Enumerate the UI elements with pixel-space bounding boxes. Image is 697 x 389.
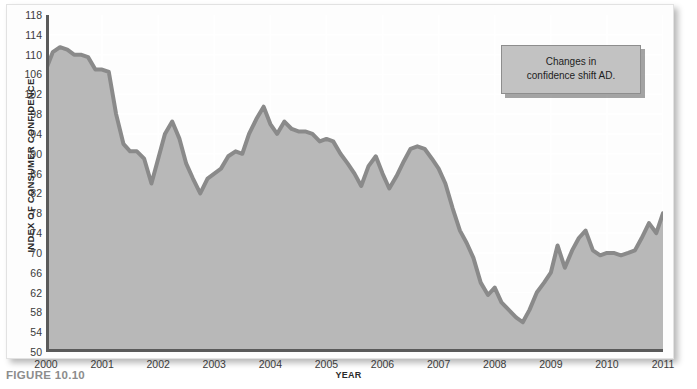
x-tick-label: 2001 xyxy=(90,358,113,370)
y-tick-label: 62 xyxy=(6,287,42,299)
x-tick-label: 2006 xyxy=(371,358,394,370)
x-tick-label: 2010 xyxy=(595,358,618,370)
y-tick-label: 54 xyxy=(6,326,42,338)
figure-root: 1181141101061029894908682787470666258545… xyxy=(0,0,697,389)
y-tick-label: 114 xyxy=(6,29,42,41)
annotation-line-1: Changes in xyxy=(508,55,634,69)
x-axis-title: YEAR xyxy=(0,370,697,380)
annotation-line-2: confidence shift AD. xyxy=(508,69,634,83)
figure-caption: FIGURE 10.10 xyxy=(6,369,85,381)
y-tick-label: 58 xyxy=(6,306,42,318)
x-tick-label: 2004 xyxy=(259,358,282,370)
x-tick-label: 2007 xyxy=(427,358,450,370)
x-tick-label: 2002 xyxy=(146,358,169,370)
y-tick-label: 118 xyxy=(6,9,42,21)
x-tick-label: 2009 xyxy=(539,358,562,370)
x-tick-label: 2008 xyxy=(483,358,506,370)
y-axis-title: INDEX OF CONSUMER CONFIDENCE xyxy=(25,51,36,281)
x-tick-label: 2011 xyxy=(652,358,675,370)
x-tick-label: 2003 xyxy=(203,358,226,370)
x-tick-label: 2005 xyxy=(315,358,338,370)
annotation-callout: Changes in confidence shift AD. xyxy=(501,45,641,94)
y-axis-tick-labels: 1181141101061029894908682787470666258545… xyxy=(0,0,42,389)
